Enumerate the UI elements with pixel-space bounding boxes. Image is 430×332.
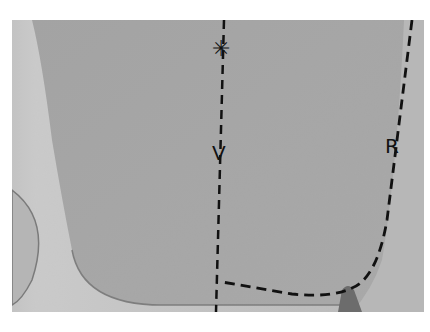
center-line-label: V	[212, 143, 226, 163]
curve-line-label: R	[385, 136, 399, 156]
marker-asterisk: ✳	[212, 38, 230, 60]
fabric-photo: ✳ V R	[12, 20, 424, 312]
photo-scene	[12, 20, 424, 312]
